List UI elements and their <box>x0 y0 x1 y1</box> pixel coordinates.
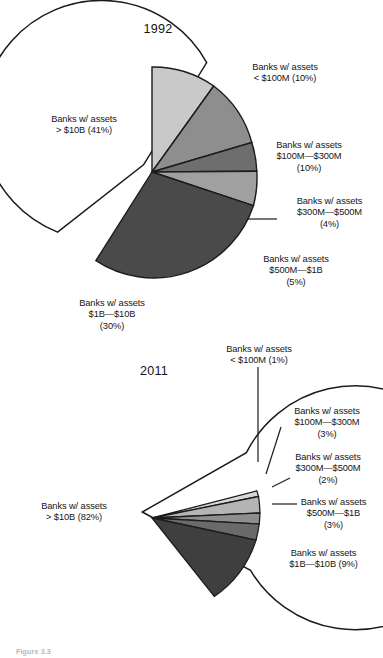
label-2011-m100-300: Banks w/ assets $100M—$300M (3%) <box>272 406 382 440</box>
figure-caption: Figure 3.3 <box>16 648 51 656</box>
label-2011-lt100m: Banks w/ assets < $100M (1%) <box>203 344 315 367</box>
chart-title-1992: 1992 <box>128 22 188 36</box>
label-1992-m300-500: Banks w/ assets $300M—$500M (4%) <box>276 196 383 230</box>
label-2011-m300-500: Banks w/ assets $300M—$500M (2%) <box>274 452 382 486</box>
label-2011-b1-10b: Banks w/ assets $1B—$10B (9%) <box>264 548 383 571</box>
label-1992-b1-10b: Banks w/ assets $1B—$10B (30%) <box>56 298 168 332</box>
label-2011-gt10b: Banks w/ assets > $10B (82%) <box>18 501 130 524</box>
chart-title-2011: 2011 <box>124 364 184 378</box>
label-2011-m500-1b: Banks w/ assets $500M—$1B (3%) <box>285 497 382 531</box>
label-1992-m500-1b: Banks w/ assets $500M—$1B (5%) <box>240 254 352 288</box>
label-1992-gt10b: Banks w/ assets > $10B (41%) <box>28 114 140 137</box>
pie-1992 <box>0 0 277 277</box>
label-1992-lt100m: Banks w/ assets < $100M (10%) <box>229 62 341 85</box>
label-1992-m100-300: Banks w/ assets $100M—$300M (10%) <box>253 140 365 174</box>
figure-stage: 1992 Banks w/ assets > $10B (41%) Banks … <box>0 0 383 658</box>
